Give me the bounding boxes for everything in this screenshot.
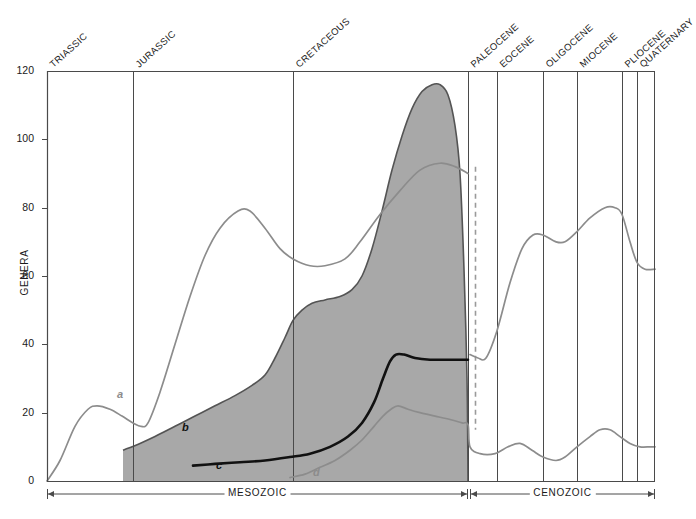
era-label-mesozoic: MESOZOIC — [224, 487, 291, 498]
area-fill-series-b — [123, 84, 468, 481]
era-label-cenozoic: CENOZOIC — [529, 487, 595, 498]
era-arrow-left — [471, 491, 477, 497]
curve-label-a: a — [117, 388, 123, 400]
era-arrow-right — [461, 491, 467, 497]
era-arrow-left — [48, 491, 54, 497]
era-arrow-right — [648, 491, 654, 497]
curve-label-d: d — [313, 466, 320, 478]
curve-label-c: c — [216, 459, 222, 471]
curve-label-b: b — [182, 421, 189, 433]
